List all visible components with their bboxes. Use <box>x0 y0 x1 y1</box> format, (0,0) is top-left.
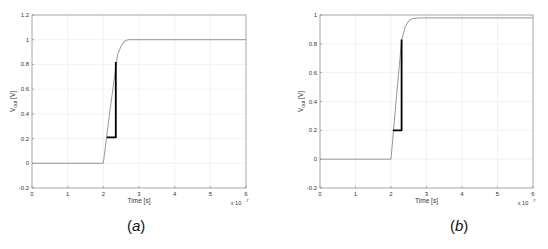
x-tick-label: 5 <box>496 191 500 197</box>
y-tick-label: 0.6 <box>309 70 318 76</box>
y-tick-label: 0 <box>314 156 318 162</box>
plot-area-b: 0123456-0.200.20.40.60.81Time [s]x 10-7V… <box>297 12 536 206</box>
svg-text:-7: -7 <box>245 198 249 203</box>
y-tick-label: 0.2 <box>21 136 30 142</box>
x-tick-label: 1 <box>66 191 70 197</box>
svg-text:-7: -7 <box>532 198 536 203</box>
y-tick-label: 1 <box>314 12 318 18</box>
y-tick-label: 0.8 <box>309 41 318 47</box>
y-tick-label: 0.4 <box>309 99 318 105</box>
x-tick-label: 4 <box>460 191 464 197</box>
y-tick-label: -0.2 <box>307 185 318 191</box>
x-tick-label: 2 <box>102 191 106 197</box>
plot-area-a: 0123456-0.200.20.40.60.811.2Time [s]x 10… <box>9 12 249 206</box>
y-axis-label: Vout [V] <box>9 91 18 112</box>
x-tick-label: 0 <box>30 191 34 197</box>
x-tick-label: 0 <box>318 191 322 197</box>
caption-a: (a) <box>127 217 145 234</box>
x-axis-label: Time [s] <box>415 197 438 205</box>
y-tick-label: 1 <box>26 37 30 43</box>
chart-b: 0123456-0.200.20.40.60.81Time [s]x 10-7V… <box>274 0 548 249</box>
x-tick-label: 6 <box>244 191 248 197</box>
x-axis-label: Time [s] <box>128 197 151 205</box>
y-tick-label: 0.8 <box>21 61 30 67</box>
x-tick-label: 4 <box>173 191 177 197</box>
x-tick-label: 2 <box>389 191 393 197</box>
x-tick-label: 1 <box>354 191 358 197</box>
y-tick-label: 0.2 <box>309 127 318 133</box>
y-tick-label: 0.6 <box>21 86 30 92</box>
y-tick-label: 1.2 <box>21 12 30 18</box>
x-multiplier: x 10 <box>518 200 528 206</box>
y-axis-label: Vout [V] <box>297 91 306 112</box>
y-tick-label: 0.4 <box>21 111 30 117</box>
x-tick-label: 6 <box>531 191 535 197</box>
y-tick-label: 0 <box>26 160 30 166</box>
chart-a: 0123456-0.200.20.40.60.811.2Time [s]x 10… <box>0 0 274 249</box>
x-multiplier: x 10 <box>231 200 241 206</box>
x-tick-label: 5 <box>209 191 213 197</box>
caption-b: (b) <box>450 217 468 234</box>
y-tick-label: -0.2 <box>19 185 30 191</box>
